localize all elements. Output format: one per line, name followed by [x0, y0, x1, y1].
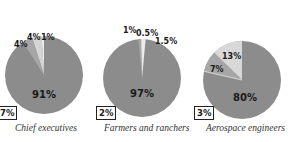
label-b: 4% [27, 33, 41, 42]
label-a: 4% [14, 40, 28, 49]
label-main: 97% [130, 88, 154, 99]
pie-farmers-ranchers: 97% 1% 0.5% 1.5% [103, 26, 181, 117]
caption-farmers-ranchers: Farmers and ranchers [104, 123, 190, 133]
pie-charts: 91% 4% 4% 1% 97% 1% 0.5% 1.5% 80% 7% 13% [0, 0, 288, 142]
label-a: 7% [210, 65, 224, 74]
boxed-value-farmers-ranchers: 2% [96, 106, 116, 120]
label-main: 80% [233, 92, 257, 103]
caption-chief-executives: Chief executives [15, 123, 77, 133]
label-c: 1% [41, 33, 55, 42]
label-c: 1.5% [155, 37, 177, 46]
boxed-value-chief-executives: 7% [0, 106, 17, 120]
label-b: 13% [222, 52, 241, 61]
label-main: 91% [32, 89, 56, 100]
boxed-value-aerospace-engineers: 3% [194, 106, 214, 120]
caption-aerospace-engineers: Aerospace engineers [206, 123, 285, 133]
pie-aerospace-engineers: 80% 7% 13% [203, 41, 281, 119]
pie-chief-executives: 91% 4% 4% 1% [5, 33, 83, 114]
label-a: 1% [123, 26, 137, 35]
